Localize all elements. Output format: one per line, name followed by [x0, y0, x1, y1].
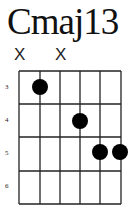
- finger-dot: [72, 113, 88, 129]
- finger-dot: [32, 79, 48, 95]
- finger-dot: [92, 144, 108, 160]
- finger-dot: [112, 144, 128, 160]
- fretboard-grid: [0, 0, 134, 216]
